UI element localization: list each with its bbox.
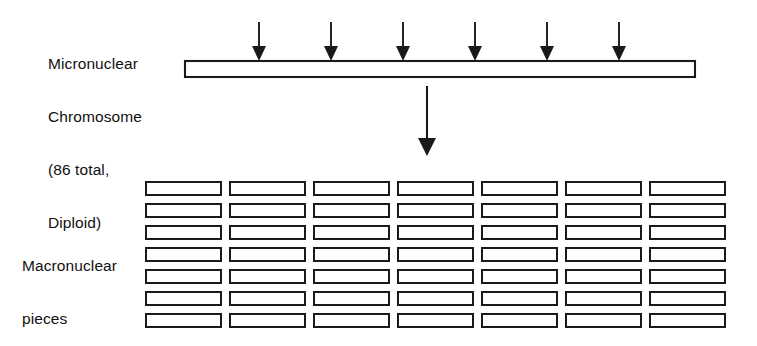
macronuclear-piece-r3-c5 [482, 226, 557, 239]
macronuclear-piece-r4-c7 [650, 248, 725, 261]
macronuclear-piece-r7-c5 [482, 314, 557, 327]
macronuclear-piece-r5-c4 [398, 270, 473, 283]
macronuclear-piece-r7-c6 [566, 314, 641, 327]
macronuclear-piece-r5-c5 [482, 270, 557, 283]
macronuclear-piece-r5-c7 [650, 270, 725, 283]
macronuclear-piece-r1-c7 [650, 182, 725, 195]
macronuclear-piece-r1-c2 [230, 182, 305, 195]
macronuclear-piece-r2-c5 [482, 204, 557, 217]
macronuclear-piece-r7-c2 [230, 314, 305, 327]
macronuclear-piece-r1-c4 [398, 182, 473, 195]
macronuclear-piece-r5-c2 [230, 270, 305, 283]
macronuclear-pieces-grid [146, 182, 725, 327]
fragmentation-arrow-head-2 [324, 46, 338, 61]
fragmentation-arrow-head-1 [252, 46, 266, 61]
macronuclear-piece-r5-c6 [566, 270, 641, 283]
macronuclear-piece-r3-c2 [230, 226, 305, 239]
macronuclear-piece-r5-c1 [146, 270, 221, 283]
transition-arrow-head [418, 138, 436, 156]
chromosome-fragmentation-diagram: Micronuclear Chromosome (86 total, Diplo… [0, 0, 757, 346]
macronuclear-piece-r4-c5 [482, 248, 557, 261]
macronuclear-piece-r7-c4 [398, 314, 473, 327]
fragmentation-arrow-head-4 [468, 46, 482, 61]
macronuclear-piece-r4-c1 [146, 248, 221, 261]
micronuclear-chromosome-bar [185, 61, 695, 77]
macronuclear-piece-r3-c4 [398, 226, 473, 239]
macronuclear-piece-r2-c2 [230, 204, 305, 217]
macronuclear-piece-r2-c3 [314, 204, 389, 217]
fragmentation-arrows-group [252, 22, 626, 61]
macronuclear-piece-r1-c3 [314, 182, 389, 195]
macronuclear-piece-r6-c7 [650, 292, 725, 305]
macronuclear-piece-r3-c7 [650, 226, 725, 239]
macronuclear-piece-r6-c6 [566, 292, 641, 305]
macronuclear-piece-r4-c2 [230, 248, 305, 261]
macronuclear-piece-r3-c6 [566, 226, 641, 239]
macronuclear-piece-r2-c7 [650, 204, 725, 217]
macronuclear-piece-r6-c2 [230, 292, 305, 305]
macronuclear-piece-r5-c3 [314, 270, 389, 283]
fragmentation-arrow-head-3 [396, 46, 410, 61]
diagram-graphics-layer [0, 0, 757, 346]
macronuclear-piece-r1-c1 [146, 182, 221, 195]
macronuclear-piece-r7-c3 [314, 314, 389, 327]
macronuclear-piece-r4-c3 [314, 248, 389, 261]
macronuclear-piece-r6-c4 [398, 292, 473, 305]
macronuclear-piece-r7-c7 [650, 314, 725, 327]
macronuclear-piece-r1-c5 [482, 182, 557, 195]
fragmentation-transition-arrow [418, 86, 436, 156]
macronuclear-piece-r2-c4 [398, 204, 473, 217]
macronuclear-piece-r2-c1 [146, 204, 221, 217]
macronuclear-piece-r2-c6 [566, 204, 641, 217]
fragmentation-arrow-head-6 [612, 46, 626, 61]
macronuclear-piece-r4-c6 [566, 248, 641, 261]
macronuclear-piece-r3-c3 [314, 226, 389, 239]
macronuclear-piece-r1-c6 [566, 182, 641, 195]
macronuclear-piece-r6-c5 [482, 292, 557, 305]
macronuclear-piece-r4-c4 [398, 248, 473, 261]
macronuclear-piece-r3-c1 [146, 226, 221, 239]
fragmentation-arrow-head-5 [540, 46, 554, 61]
macronuclear-piece-r6-c3 [314, 292, 389, 305]
macronuclear-piece-r6-c1 [146, 292, 221, 305]
macronuclear-piece-r7-c1 [146, 314, 221, 327]
